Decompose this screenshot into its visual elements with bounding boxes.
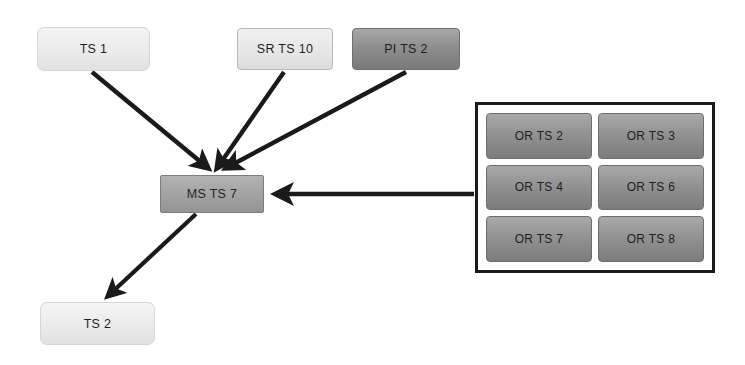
edge-pits2-to-msts7 <box>226 72 406 168</box>
or-group-grid: OR TS 2 OR TS 3 OR TS 4 OR TS 6 OR TS 7 … <box>486 113 704 262</box>
node-ts1-label: TS 1 <box>80 42 108 56</box>
node-orts-4-label: OR TS 7 <box>515 232 564 246</box>
node-orts-0-label: OR TS 2 <box>515 129 564 143</box>
node-orts-0[interactable]: OR TS 2 <box>486 113 592 159</box>
node-orts-1[interactable]: OR TS 3 <box>598 113 704 159</box>
node-orts-4[interactable]: OR TS 7 <box>486 216 592 262</box>
or-group-container: OR TS 2 OR TS 3 OR TS 4 OR TS 6 OR TS 7 … <box>475 102 715 273</box>
edge-srts10-to-msts7 <box>217 72 284 168</box>
node-orts-1-label: OR TS 3 <box>627 129 676 143</box>
node-ts2-label: TS 2 <box>84 317 112 331</box>
diagram-canvas: TS 1 SR TS 10 PI TS 2 MS TS 7 TS 2 OR TS… <box>0 0 745 365</box>
node-srts10[interactable]: SR TS 10 <box>237 28 333 70</box>
node-pits2-label: PI TS 2 <box>384 42 428 56</box>
node-msts7[interactable]: MS TS 7 <box>160 175 264 213</box>
node-orts-3-label: OR TS 6 <box>627 180 676 194</box>
node-srts10-label: SR TS 10 <box>257 42 313 56</box>
node-orts-2-label: OR TS 4 <box>515 180 564 194</box>
node-ts1[interactable]: TS 1 <box>37 27 150 71</box>
node-msts7-label: MS TS 7 <box>187 187 238 201</box>
edge-ts1-to-msts7 <box>92 72 208 168</box>
node-orts-3[interactable]: OR TS 6 <box>598 165 704 211</box>
node-orts-2[interactable]: OR TS 4 <box>486 165 592 211</box>
edge-msts7-to-ts2 <box>108 214 196 296</box>
node-orts-5[interactable]: OR TS 8 <box>598 216 704 262</box>
node-ts2[interactable]: TS 2 <box>40 302 155 345</box>
node-pits2[interactable]: PI TS 2 <box>352 28 460 70</box>
node-orts-5-label: OR TS 8 <box>627 232 676 246</box>
